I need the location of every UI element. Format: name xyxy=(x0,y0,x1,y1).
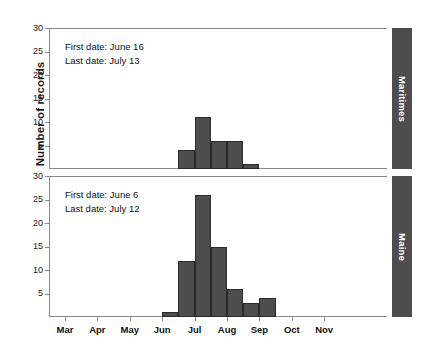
bar xyxy=(178,150,194,169)
y-tick-mark xyxy=(45,146,49,147)
y-tick-label: 25 xyxy=(19,195,43,204)
strip-label-maritimes-text: Maritimes xyxy=(397,75,408,121)
bar xyxy=(178,261,194,317)
bar xyxy=(211,141,227,169)
annotation-last-date-maine: Last date: July 12 xyxy=(65,202,139,216)
x-tick-label: Nov xyxy=(304,324,344,335)
x-tick-mark xyxy=(292,317,293,321)
annotation-last-date-maritimes: Last date: July 13 xyxy=(65,54,139,68)
bar xyxy=(195,195,211,317)
strip-label-maine-text: Maine xyxy=(397,233,408,261)
bar xyxy=(259,298,275,317)
x-tick-mark xyxy=(195,317,196,321)
y-tick-mark xyxy=(45,294,49,295)
y-tick-label: 10 xyxy=(19,118,43,127)
strip-label-maine: Maine xyxy=(392,176,412,317)
y-tick-mark xyxy=(45,200,49,201)
bar xyxy=(243,164,259,169)
y-tick-mark xyxy=(45,75,49,76)
y-tick-mark xyxy=(45,176,49,177)
histogram-figure: Number of records First date: June 16 La… xyxy=(0,0,434,346)
x-tick-mark xyxy=(130,317,131,321)
annotation-first-date-maine: First date: June 6 xyxy=(65,188,138,202)
y-tick-label: 30 xyxy=(19,172,43,181)
panel-maritimes: First date: June 16 Last date: July 13 5… xyxy=(49,28,387,169)
y-tick-mark xyxy=(45,223,49,224)
bar xyxy=(211,247,227,318)
annotation-first-date-maritimes: First date: June 16 xyxy=(65,40,144,54)
y-tick-label: 20 xyxy=(19,71,43,80)
y-tick-label: 10 xyxy=(19,266,43,275)
bar xyxy=(227,289,243,317)
x-tick-mark xyxy=(65,317,66,321)
x-tick-mark xyxy=(227,317,228,321)
y-tick-mark xyxy=(45,122,49,123)
y-tick-mark xyxy=(45,270,49,271)
x-tick-mark xyxy=(162,317,163,321)
y-tick-label: 25 xyxy=(19,47,43,56)
y-tick-label: 20 xyxy=(19,219,43,228)
y-tick-label: 5 xyxy=(19,141,43,150)
y-tick-label: 5 xyxy=(19,289,43,298)
bar xyxy=(227,141,243,169)
x-tick-mark xyxy=(97,317,98,321)
bar xyxy=(243,303,259,317)
y-tick-label: 15 xyxy=(19,94,43,103)
strip-label-maritimes: Maritimes xyxy=(392,28,412,169)
y-tick-label: 15 xyxy=(19,242,43,251)
bar xyxy=(195,117,211,169)
y-axis-title: Number of records xyxy=(34,14,46,214)
x-axis: MarAprMayJunJulAugSepOctNov xyxy=(49,317,387,345)
x-tick-mark xyxy=(324,317,325,321)
y-tick-mark xyxy=(45,52,49,53)
y-tick-mark xyxy=(45,247,49,248)
x-tick-mark xyxy=(259,317,260,321)
panel-maine: First date: June 6 Last date: July 12 51… xyxy=(49,176,387,317)
y-tick-mark xyxy=(45,28,49,29)
y-tick-label: 30 xyxy=(19,24,43,33)
y-tick-mark xyxy=(45,99,49,100)
